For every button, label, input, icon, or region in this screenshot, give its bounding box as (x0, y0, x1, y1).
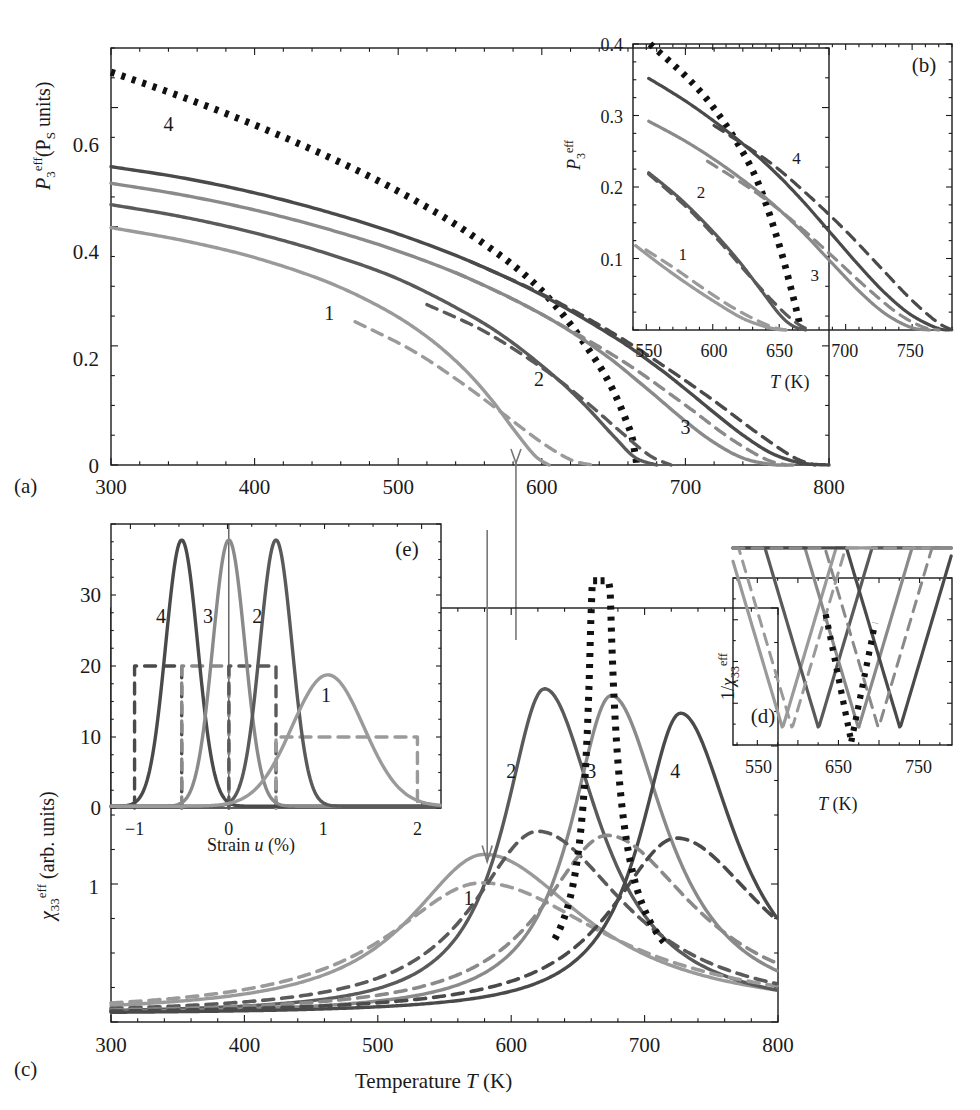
panel-e-curve-label-4: 4 (156, 605, 166, 627)
panel-e-xlabel-unit: (%) (264, 835, 295, 855)
panel-e-xtick: 1 (319, 819, 328, 839)
panel-e-ytick: 30 (80, 583, 101, 607)
panel-e-plot: −10120102030(e)4321 (0, 0, 980, 1110)
panel-e-ytick: 0 (91, 796, 102, 820)
panel-e-curve-label-2: 2 (252, 605, 262, 627)
panel-e-xtick: 2 (413, 819, 422, 839)
panel-e-xlabel: Strain u (%) (207, 835, 295, 856)
panel-e-curve-label-3: 3 (203, 605, 213, 627)
panel-e-xlabel-word: Strain (207, 835, 255, 855)
panel-e-label: (e) (395, 537, 418, 561)
panel-e-ytick: 10 (80, 725, 101, 749)
panel-e-ytick: 20 (80, 654, 101, 678)
panel-e-curve-label-1: 1 (321, 684, 331, 706)
panel-e-xtick: −1 (125, 819, 144, 839)
panel-e-xlabel-u: u (255, 835, 264, 855)
